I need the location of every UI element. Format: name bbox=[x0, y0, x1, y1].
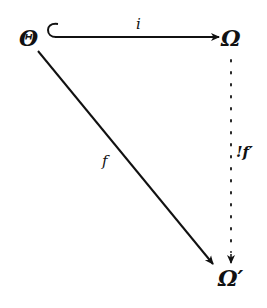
node-omega-prime: Ω′ bbox=[218, 267, 243, 289]
node-omega: Ω bbox=[221, 27, 241, 49]
unique-f-prime-label: !f′ bbox=[236, 145, 253, 160]
commutative-diagram: Θ Ω Ω′ i f !f′ bbox=[0, 0, 267, 308]
inclusion-arrow bbox=[48, 24, 219, 37]
f-arrow bbox=[38, 51, 213, 264]
inclusion-label: i bbox=[136, 17, 141, 32]
f-label: f bbox=[102, 154, 108, 169]
inclusion-hook bbox=[48, 24, 58, 37]
node-theta: Θ bbox=[19, 27, 38, 49]
